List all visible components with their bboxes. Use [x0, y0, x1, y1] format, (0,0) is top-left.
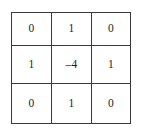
matrix-cell-r1c2: 1	[92, 46, 131, 84]
matrix-cell-r0c2: 0	[92, 13, 131, 46]
table-row: 0 1 0	[12, 84, 131, 124]
matrix-cell-r2c1: 1	[52, 84, 92, 124]
table-row: 0 1 0	[12, 13, 131, 46]
matrix-cell-value: 1	[52, 23, 91, 35]
matrix-cell-value: 1	[92, 59, 130, 71]
matrix-cell-value: 0	[12, 23, 51, 35]
table-row: 1 –4 1	[12, 46, 131, 84]
matrix-cell-value: 0	[92, 23, 130, 35]
matrix-cell-value: 0	[12, 98, 51, 110]
matrix-cell-r2c0: 0	[12, 84, 52, 124]
matrix-cell-value: –4	[52, 59, 91, 71]
matrix-cell-r0c1: 1	[52, 13, 92, 46]
kernel-figure: 0 1 0 1 –4 1	[0, 0, 141, 132]
matrix-cell-r0c0: 0	[12, 13, 52, 46]
matrix-cell-r1c1: –4	[52, 46, 92, 84]
matrix-cell-value: 0	[92, 98, 130, 110]
kernel-matrix-table: 0 1 0 1 –4 1	[11, 12, 131, 124]
matrix-cell-r1c0: 1	[12, 46, 52, 84]
matrix-cell-value: 1	[12, 59, 51, 71]
matrix-cell-value: 1	[52, 98, 91, 110]
matrix-cell-r2c2: 0	[92, 84, 131, 124]
